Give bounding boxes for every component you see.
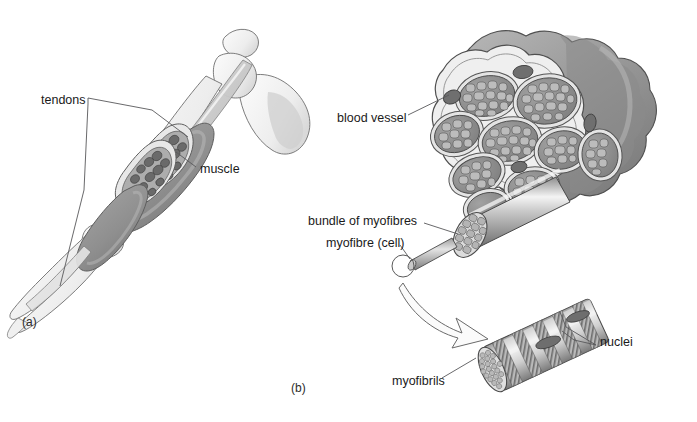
myofibre-stalk-shaft [410, 238, 457, 270]
myofibril-cylinder [472, 298, 610, 396]
label-bundle-of-myofibres: bundle of myofibres [308, 215, 417, 228]
label-nuclei: nuclei [600, 336, 633, 349]
leader-myofibrils [442, 358, 476, 378]
label-blood-vessel: blood vessel [337, 112, 407, 125]
figure-root: tendons muscle blood vessel bundle of my… [0, 0, 697, 422]
label-tendons: tendons [41, 94, 85, 107]
label-myofibrils: myofibrils [392, 375, 445, 388]
label-myofibre-cell: myofibre (cell) [326, 237, 405, 250]
leader-bundle-of-myofibres [424, 223, 458, 234]
panel-a-arm [7, 29, 309, 338]
panel-tag-a: (a) [22, 316, 37, 328]
magnification-arrow [399, 283, 488, 348]
panel-tag-b: (b) [291, 382, 306, 394]
anatomy-illustration [0, 0, 697, 422]
label-muscle: muscle [200, 163, 240, 176]
